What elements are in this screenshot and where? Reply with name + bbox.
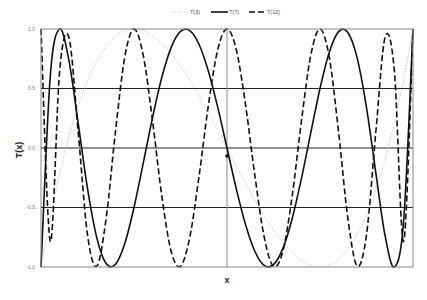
y-tick-label: 0.0: [28, 145, 35, 151]
origin-marker: [225, 154, 229, 158]
y-tick-label: -0.5: [26, 204, 35, 210]
y-tick-label: -1.0: [26, 264, 35, 270]
y-tick-labels: 1.00.50.0-0.5-1.0: [26, 26, 35, 270]
y-tick-label: 1.0: [28, 26, 35, 32]
legend: T(3)T(7)T(12): [172, 9, 280, 15]
y-tick-label: 0.5: [28, 85, 35, 91]
legend-label: T(7): [229, 9, 239, 15]
y-axis-label: T(x): [14, 142, 24, 159]
chebyshev-chart: T(3)T(7)T(12) 1.00.50.0-0.5-1.0 T(x) x: [0, 0, 427, 300]
legend-label: T(3): [190, 9, 200, 15]
legend-label: T(12): [267, 9, 280, 15]
x-axis-label: x: [224, 275, 229, 285]
